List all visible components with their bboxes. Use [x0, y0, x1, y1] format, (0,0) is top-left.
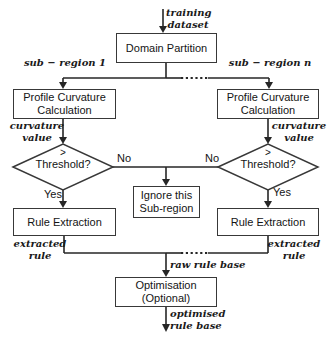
- label-extracted-rule-right: extracted rule: [264, 238, 324, 261]
- label-no-right: No: [200, 153, 224, 164]
- label-curvature-right-line1: curvature: [272, 120, 326, 131]
- node-domain-partition-label: Domain Partition: [126, 42, 207, 55]
- arrowhead-into-ignore: [162, 179, 170, 186]
- arrowhead-into-profile-right: [265, 82, 273, 89]
- node-threshold-left-line2: Threshold?: [13, 158, 113, 170]
- node-rule-extraction-right-label: Rule Extraction: [231, 216, 306, 229]
- arrowhead-into-optimisation: [162, 270, 170, 277]
- label-sub-region-n: sub − region n: [224, 57, 316, 69]
- node-profile-curvature-right-line1: Profile Curvature: [227, 91, 310, 104]
- node-threshold-left-text: > Threshold?: [13, 148, 113, 170]
- node-profile-curvature-left: Profile Curvature Calculation: [13, 89, 116, 119]
- label-training-dataset: training dataset: [166, 7, 210, 30]
- node-threshold-right-line1: >: [218, 148, 318, 158]
- label-curvature-left-line2: value: [7, 132, 67, 144]
- node-optimisation-line2: (Optional): [142, 292, 190, 305]
- label-curvature-value-right: curvature value: [269, 120, 329, 143]
- node-rule-extraction-left: Rule Extraction: [13, 208, 116, 236]
- label-optimised-rule-base: optimised rule base: [170, 308, 225, 331]
- node-ignore-subregion-line1: Ignore this: [141, 189, 192, 202]
- label-no-left: No: [112, 153, 136, 164]
- label-curvature-left-line1: curvature: [10, 120, 64, 131]
- node-threshold-right-text: > Threshold?: [218, 148, 318, 170]
- label-yes-left: Yes: [37, 189, 69, 200]
- node-threshold-right-line2: Threshold?: [218, 158, 318, 170]
- node-ignore-subregion-line2: Sub-region: [140, 202, 194, 215]
- label-curvature-value-left: curvature value: [7, 120, 67, 143]
- label-curvature-right-line2: value: [269, 132, 329, 144]
- arrowhead-into-profile-left: [59, 82, 67, 89]
- node-rule-extraction-left-label: Rule Extraction: [27, 216, 102, 229]
- flowchart-canvas: Domain Partition Profile Curvature Calcu…: [0, 0, 331, 342]
- label-training-dataset-line2: dataset: [166, 19, 210, 31]
- node-profile-curvature-right: Profile Curvature Calculation: [217, 89, 319, 119]
- label-optimised-line2: rule base: [170, 320, 225, 332]
- label-optimised-line1: optimised: [170, 308, 225, 319]
- label-training-dataset-line1: training: [166, 7, 212, 18]
- arrowhead-final-output: [162, 324, 170, 332]
- node-rule-extraction-right: Rule Extraction: [217, 208, 319, 236]
- node-profile-curvature-left-line1: Profile Curvature: [23, 91, 106, 104]
- node-domain-partition: Domain Partition: [116, 33, 217, 63]
- label-extracted-left-line1: extracted: [14, 238, 67, 249]
- arrowhead-into-rule-left: [59, 201, 67, 208]
- label-extracted-right-line2: rule: [264, 250, 324, 262]
- label-yes-right: Yes: [266, 187, 298, 198]
- node-optimisation: Optimisation (Optional): [115, 277, 217, 307]
- node-threshold-left-line1: >: [13, 148, 113, 158]
- node-optimisation-line1: Optimisation: [135, 279, 196, 292]
- label-extracted-right-line1: extracted: [268, 238, 321, 249]
- label-raw-rule-base: raw rule base: [170, 259, 245, 271]
- node-profile-curvature-left-line2: Calculation: [37, 104, 91, 117]
- node-ignore-subregion: Ignore this Sub-region: [133, 186, 200, 218]
- arrowhead-into-rule-right: [264, 201, 272, 208]
- label-extracted-left-line2: rule: [10, 250, 70, 262]
- label-sub-region-1: sub − region 1: [19, 57, 111, 69]
- node-profile-curvature-right-line2: Calculation: [241, 104, 295, 117]
- label-extracted-rule-left: extracted rule: [10, 238, 70, 261]
